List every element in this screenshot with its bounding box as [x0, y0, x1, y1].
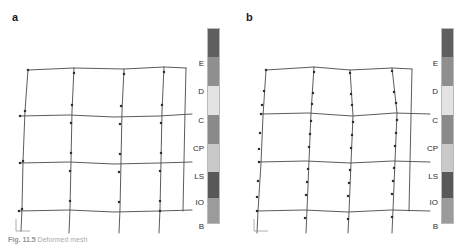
mesh-node: [70, 152, 72, 154]
mesh-node: [70, 122, 72, 124]
panel-b-mesh: [246, 55, 436, 235]
mesh-node: [21, 208, 23, 210]
colorbar-segment: [442, 29, 453, 57]
mesh-node: [118, 201, 120, 203]
mesh-node: [306, 181, 308, 183]
mesh-node: [19, 162, 21, 164]
mesh-node: [349, 169, 351, 171]
mesh-node: [304, 217, 306, 219]
colorbar-label-cp: CP: [427, 145, 438, 153]
mesh-node: [258, 161, 260, 163]
panel-b-label: b: [246, 12, 253, 23]
mesh-node: [351, 104, 353, 106]
mesh-node: [395, 102, 397, 104]
mesh-node: [263, 90, 265, 92]
mesh-node: [393, 91, 395, 93]
colorbar-label-cp: CP: [193, 145, 204, 153]
mesh-node: [258, 148, 260, 150]
mesh-node: [159, 170, 161, 172]
colorbar-label-d: D: [198, 88, 204, 96]
figure-container: a EDCCPLSIOB b EDCCPLSIOB Fig. 11.5 Defo…: [0, 0, 468, 248]
mesh-node: [391, 70, 393, 72]
colorbar-label-ls: LS: [194, 173, 204, 181]
mesh-node: [310, 120, 312, 122]
mesh-node: [392, 180, 394, 182]
panel-a-mesh: [8, 55, 198, 235]
mesh-node: [73, 72, 75, 74]
mesh-node: [22, 160, 24, 162]
mesh-node: [256, 196, 258, 198]
caption-text: Deformed mesh: [38, 236, 88, 243]
mesh-node: [160, 122, 162, 124]
mesh-node: [305, 194, 307, 196]
mesh-node: [351, 134, 353, 136]
mesh-node: [71, 104, 73, 106]
mesh-node: [27, 69, 29, 71]
colorbar-b-labels: EDCCPLSIOB: [416, 28, 438, 224]
mesh-horizontal-line: [266, 67, 412, 70]
colorbar-label-io: IO: [430, 199, 438, 207]
colorbar-segment: [442, 86, 453, 115]
colorbar-label-e: E: [433, 60, 438, 68]
colorbar-segment: [208, 29, 219, 57]
mesh-horizontal-line: [20, 114, 192, 117]
mesh-horizontal-line: [20, 162, 192, 164]
mesh-vertical-line: [257, 70, 266, 233]
colorbar-segment: [208, 198, 219, 224]
mesh-node: [394, 145, 396, 147]
mesh-node: [307, 168, 309, 170]
mesh-node: [309, 133, 311, 135]
mesh-horizontal-line: [261, 113, 430, 116]
mesh-vertical-line: [159, 67, 164, 233]
panel-a: a EDCCPLSIOB: [0, 0, 234, 248]
mesh-node: [265, 69, 267, 71]
colorbar-segment: [208, 144, 219, 172]
caption-number: Fig. 11.5: [8, 236, 36, 243]
colorbar-segment: [442, 172, 453, 198]
mesh-node: [119, 153, 121, 155]
mesh-node: [69, 170, 71, 172]
axis-marker-icon: [16, 219, 30, 231]
colorbar-label-b: B: [199, 223, 204, 231]
mesh-node: [159, 210, 161, 212]
mesh-node: [118, 171, 120, 173]
mesh-node: [160, 152, 162, 154]
colorbar-label-c: C: [432, 117, 438, 125]
colorbar-segment: [208, 115, 219, 144]
mesh-node: [260, 113, 262, 115]
mesh-node: [18, 210, 20, 212]
mesh-node: [261, 104, 263, 106]
mesh-node: [123, 73, 125, 75]
colorbar-segment: [442, 144, 453, 172]
mesh-node: [308, 146, 310, 148]
mesh-node: [259, 132, 261, 134]
colorbar-segment: [442, 57, 453, 86]
colorbar-label-c: C: [198, 117, 204, 125]
mesh-node: [391, 193, 393, 195]
mesh-node: [347, 218, 349, 220]
colorbar-segment: [208, 86, 219, 115]
colorbar-label-ls: LS: [428, 173, 438, 181]
mesh-node: [347, 195, 349, 197]
mesh-node: [396, 119, 398, 121]
mesh-vertical-line: [21, 70, 28, 231]
mesh-node: [395, 132, 397, 134]
mesh-node: [312, 92, 314, 94]
mesh-node: [19, 115, 21, 117]
mesh-diagram-a: [8, 55, 198, 235]
mesh-horizontal-line: [257, 210, 430, 212]
colorbar-label-e: E: [199, 60, 204, 68]
mesh-node: [348, 182, 350, 184]
mesh-diagram-b: [246, 55, 436, 235]
mesh-node: [391, 216, 393, 218]
mesh-node: [256, 210, 258, 212]
mesh-node: [159, 200, 161, 202]
mesh-node: [350, 93, 352, 95]
mesh-node: [69, 200, 71, 202]
mesh-node: [257, 180, 259, 182]
figure-caption: Fig. 11.5 Deformed mesh: [8, 236, 87, 244]
colorbar-label-d: D: [432, 88, 438, 96]
colorbar-segment: [208, 57, 219, 86]
mesh-node: [163, 71, 165, 73]
mesh-vertical-line: [69, 68, 74, 233]
